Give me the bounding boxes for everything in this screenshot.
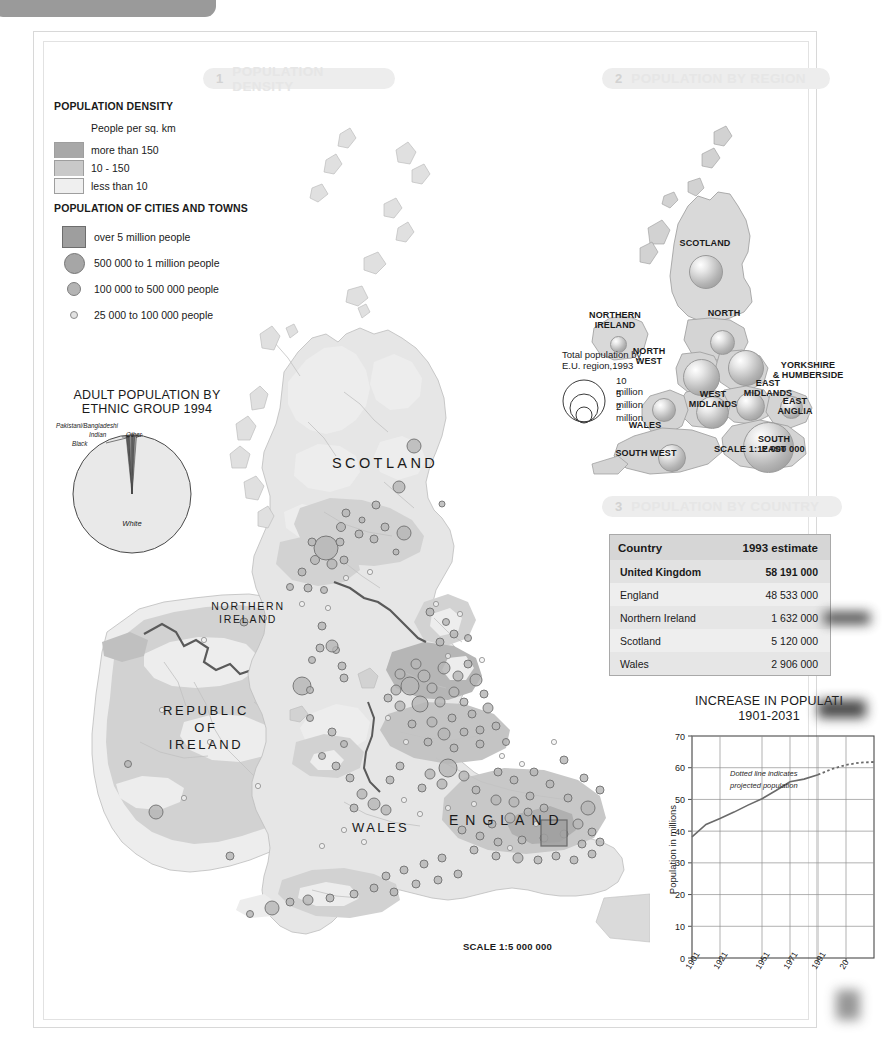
section-title: POPULATION DENSITY xyxy=(232,64,382,94)
chart-x-tick-label: 1921 xyxy=(711,949,730,971)
region-label-scotland: SCOTLAND xyxy=(662,238,748,248)
density-swatch-high xyxy=(54,142,84,158)
edge-artifact-low xyxy=(836,990,860,1020)
edge-artifact-mid xyxy=(818,700,866,718)
city-legend-row: 100 000 to 500 000 people xyxy=(54,276,314,302)
region-bubble-scotland xyxy=(689,255,723,289)
density-legend: POPULATION DENSITY People per sq. km mor… xyxy=(54,100,304,196)
region-map-key: Total population byE.U. region,1993 10 m… xyxy=(562,349,712,371)
table-cell-country: Scotland xyxy=(610,635,771,647)
density-legend-heading: POPULATION DENSITY xyxy=(54,100,304,112)
region-label-north: NORTH xyxy=(697,308,751,318)
section-header-population-density: 1 POPULATION DENSITY xyxy=(203,68,395,89)
region-population-map: SCOTLAND NORTHERNIRELAND NORTH NORTHWEST… xyxy=(552,96,847,476)
section-header-population-by-country: 3 POPULATION BY COUNTRY xyxy=(602,496,842,517)
pie-slice-label-white: White xyxy=(122,519,141,528)
chart-y-tick-label: 40 xyxy=(675,827,685,837)
table-cell-estimate: 58 191 000 xyxy=(765,566,830,578)
density-legend-row: 10 - 150 xyxy=(54,160,304,176)
chart-annotation: projected population xyxy=(729,781,798,790)
chart-x-tick-label: 1901 xyxy=(683,949,702,971)
section-title: POPULATION BY REGION xyxy=(631,71,806,86)
pie-slice-label-indian: Indian xyxy=(89,431,106,438)
table-row: Wales 2 906 000 xyxy=(610,652,830,675)
density-label-low: less than 10 xyxy=(91,180,148,192)
city-legend-heading: POPULATION OF CITIES AND TOWNS xyxy=(54,202,314,214)
pie-title-line1: ADULT POPULATION BY xyxy=(74,388,221,402)
pie-slice-label-other: Other xyxy=(126,431,142,438)
density-label-mid: 10 - 150 xyxy=(91,162,130,174)
region-label-east-anglia: EASTANGLIA xyxy=(770,396,820,416)
line-chart-svg: 0102030405060701901192119511971199120Dot… xyxy=(652,728,882,998)
table-cell-country: England xyxy=(610,589,765,601)
table-cell-country: United Kingdom xyxy=(610,566,765,578)
density-swatch-mid xyxy=(54,160,84,176)
ethnic-group-pie-chart: ADULT POPULATION BY ETHNIC GROUP 1994 Wh… xyxy=(52,388,242,416)
city-symbol-medium-circle xyxy=(67,282,81,296)
table-cell-estimate: 2 906 000 xyxy=(771,658,830,670)
table-cell-country: Northern Ireland xyxy=(610,612,771,624)
map-label-wales: WALES xyxy=(352,820,409,835)
table-row: Scotland 5 120 000 xyxy=(610,629,830,652)
density-legend-row: more than 150 xyxy=(54,142,304,158)
edge-artifact-top xyxy=(824,612,870,624)
region-label-south-west: SOUTH WEST xyxy=(608,448,684,458)
region-map-scale: SCALE 1:12 000 000 xyxy=(714,444,805,454)
region-bubble-wales xyxy=(652,398,676,422)
table-header-row: Country 1993 estimate xyxy=(610,535,830,560)
region-key-circles-svg xyxy=(562,377,614,425)
table-row: Northern Ireland 1 632 000 xyxy=(610,606,830,629)
region-label-west-midlands: WESTMIDLANDS xyxy=(677,389,749,409)
pie-svg: White xyxy=(62,424,232,559)
main-map-scale: SCALE 1:5 000 000 xyxy=(463,941,552,952)
chart-y-tick-label: 20 xyxy=(675,890,685,900)
region-label-yorkshire-humberside: YORKSHIRE& HUMBERSIDE xyxy=(762,360,854,380)
increase-in-population-chart: INCREASE IN POPULATI 1901-2031 Populatio… xyxy=(652,694,882,1004)
line-chart-title-line2: 1901-2031 xyxy=(738,709,800,723)
city-legend-row: 500 000 to 1 million people xyxy=(54,250,314,276)
city-symbol-large-circle xyxy=(64,253,85,274)
city-label-25k-100k: 25 000 to 100 000 people xyxy=(94,309,213,321)
city-population-legend: POPULATION OF CITIES AND TOWNS over 5 mi… xyxy=(54,202,314,328)
density-swatch-low xyxy=(54,178,84,194)
chart-y-tick-label: 0 xyxy=(680,954,685,964)
map-label-northern-ireland: NORTHERNIRELAND xyxy=(200,600,296,626)
pie-title-line2: ETHNIC GROUP 1994 xyxy=(82,402,212,416)
section-number: 1 xyxy=(216,71,223,86)
chart-y-tick-label: 50 xyxy=(675,795,685,805)
pie-slice-label-black: Black xyxy=(72,440,87,447)
chart-y-tick-label: 30 xyxy=(675,858,685,868)
density-label-high: more than 150 xyxy=(91,144,159,156)
city-legend-row: over 5 million people xyxy=(54,224,314,250)
city-legend-row: 25 000 to 100 000 people xyxy=(54,302,314,328)
section-number: 3 xyxy=(615,499,622,514)
city-symbol-small-circle xyxy=(70,311,78,319)
density-legend-row: less than 10 xyxy=(54,178,304,194)
city-label-over-5m: over 5 million people xyxy=(94,231,190,243)
chart-y-tick-label: 70 xyxy=(675,732,685,742)
table-cell-country: Wales xyxy=(610,658,771,670)
table-header-estimate: 1993 estimate xyxy=(743,542,830,554)
map-label-republic-of-ireland: REPUBLICOFIRELAND xyxy=(148,702,264,753)
table-row: England 48 533 000 xyxy=(610,583,830,606)
table-header-country: Country xyxy=(610,542,743,554)
region-label-northern-ireland: NORTHERNIRELAND xyxy=(574,310,656,330)
map-label-england: ENGLAND xyxy=(449,812,566,828)
top-tab-bar xyxy=(0,0,216,17)
section-number: 2 xyxy=(615,71,622,86)
section-header-population-by-region: 2 POPULATION BY REGION xyxy=(602,68,830,89)
chart-y-tick-label: 60 xyxy=(675,763,685,773)
region-key-title: Total population byE.U. region,1993 xyxy=(562,349,712,371)
chart-x-tick-label: 1951 xyxy=(753,949,772,971)
table-cell-estimate: 1 632 000 xyxy=(771,612,830,624)
chart-x-tick-label: 1971 xyxy=(781,949,800,971)
map-label-scotland: SCOTLAND xyxy=(332,455,438,471)
section-title: POPULATION BY COUNTRY xyxy=(631,499,819,514)
pie-chart-title: ADULT POPULATION BY ETHNIC GROUP 1994 xyxy=(52,388,242,416)
chart-x-tick-label: 20 xyxy=(837,958,851,972)
table-cell-estimate: 5 120 000 xyxy=(771,635,830,647)
city-label-500k-1m: 500 000 to 1 million people xyxy=(94,257,220,269)
chart-annotation: Dotted line indicates xyxy=(730,769,798,778)
chart-y-tick-label: 10 xyxy=(675,922,685,932)
region-key-2-million: 2 million xyxy=(616,401,643,423)
